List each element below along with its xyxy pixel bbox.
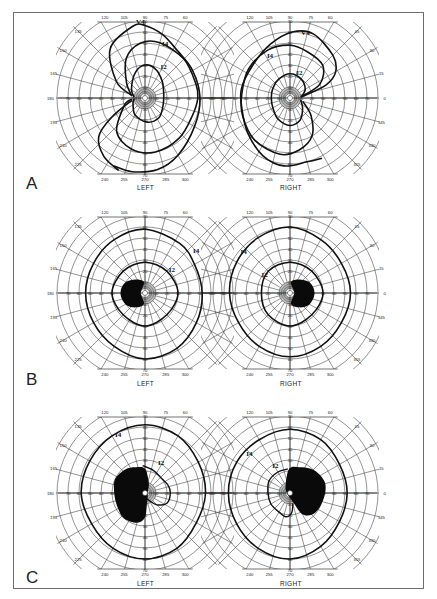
svg-text:70: 70 [66,491,71,496]
svg-text:30: 30 [370,48,375,53]
svg-text:345: 345 [378,315,386,320]
svg-text:50: 50 [143,236,148,241]
svg-text:30: 30 [255,291,260,296]
svg-text:40: 40 [332,291,337,296]
svg-text:30: 30 [176,491,181,496]
svg-text:270: 270 [287,372,295,377]
svg-text:50: 50 [233,291,238,296]
svg-text:60: 60 [77,291,82,296]
panel-letter-a: A [26,174,37,194]
svg-text:30: 30 [255,491,260,496]
svg-text:255: 255 [266,372,274,377]
svg-text:60: 60 [354,291,359,296]
svg-text:15: 15 [379,466,384,471]
svg-text:225: 225 [75,162,83,167]
svg-text:210: 210 [60,338,68,343]
svg-text:225: 225 [75,557,83,562]
svg-text:50: 50 [343,96,348,101]
svg-text:40: 40 [288,247,293,252]
svg-text:50: 50 [343,291,348,296]
svg-text:20: 20 [288,313,293,318]
svg-text:255: 255 [121,572,129,577]
svg-text:20: 20 [288,118,293,123]
svg-text:50: 50 [288,346,293,351]
svg-text:20: 20 [143,74,148,79]
svg-text:240: 240 [101,177,109,182]
svg-text:75: 75 [308,15,313,20]
label-i4-left-c: I4 [115,431,122,439]
svg-text:210: 210 [60,538,68,543]
svg-text:40: 40 [244,96,249,101]
svg-text:70: 70 [365,96,370,101]
eye-label-a-left: LEFT [137,184,154,191]
svg-text:135: 135 [75,29,83,34]
svg-text:40: 40 [288,535,293,540]
svg-text:50: 50 [88,96,93,101]
svg-text:60: 60 [183,410,188,415]
svg-text:270: 270 [142,372,150,377]
svg-text:285: 285 [162,372,170,377]
svg-text:40: 40 [187,491,192,496]
svg-text:75: 75 [308,210,313,215]
svg-text:10: 10 [277,291,282,296]
svg-text:70: 70 [211,291,216,296]
svg-text:60: 60 [77,96,82,101]
svg-text:50: 50 [288,436,293,441]
svg-text:15: 15 [379,266,384,271]
svg-text:270: 270 [142,572,150,577]
svg-text:30: 30 [176,96,181,101]
svg-text:255: 255 [121,372,129,377]
svg-text:75: 75 [308,410,313,415]
svg-text:40: 40 [143,535,148,540]
svg-text:75: 75 [163,410,168,415]
svg-text:10: 10 [154,291,159,296]
svg-text:30: 30 [288,458,293,463]
svg-text:330: 330 [368,338,376,343]
label-i2-left-c: I2 [158,459,165,467]
svg-text:240: 240 [246,372,254,377]
svg-text:195: 195 [50,315,58,320]
svg-text:270: 270 [287,177,295,182]
svg-text:315: 315 [353,557,361,562]
svg-text:120: 120 [246,15,254,20]
svg-text:20: 20 [121,96,126,101]
svg-text:0: 0 [383,96,386,101]
svg-text:75: 75 [163,15,168,20]
svg-text:240: 240 [246,572,254,577]
fixation-point-1 [288,96,293,101]
svg-text:300: 300 [182,177,190,182]
svg-text:165: 165 [50,266,58,271]
svg-text:345: 345 [378,515,386,520]
svg-text:40: 40 [288,447,293,452]
svg-text:300: 300 [182,572,190,577]
svg-text:60: 60 [328,15,333,20]
svg-text:20: 20 [266,291,271,296]
svg-text:30: 30 [255,96,260,101]
svg-text:270: 270 [142,177,150,182]
label-i2-right-c: I2 [272,462,279,470]
svg-text:225: 225 [75,357,83,362]
svg-text:195: 195 [50,515,58,520]
svg-text:255: 255 [121,177,129,182]
svg-text:50: 50 [288,236,293,241]
svg-text:60: 60 [222,491,227,496]
svg-text:40: 40 [244,491,249,496]
svg-text:50: 50 [233,491,238,496]
svg-text:50: 50 [88,291,93,296]
svg-text:70: 70 [211,96,216,101]
svg-text:270: 270 [287,572,295,577]
svg-text:105: 105 [121,15,129,20]
svg-text:20: 20 [288,269,293,274]
label-i2-left-a: I2 [160,63,167,71]
svg-text:60: 60 [183,15,188,20]
svg-text:40: 40 [143,52,148,57]
svg-text:330: 330 [368,538,376,543]
svg-text:285: 285 [307,177,315,182]
label-i2-right-a: I2 [296,69,303,77]
label-i2-left-b: I2 [169,266,176,274]
svg-text:60: 60 [328,410,333,415]
svg-text:40: 40 [332,491,337,496]
svg-text:20: 20 [165,96,170,101]
svg-text:70: 70 [66,291,71,296]
svg-text:10: 10 [288,85,293,90]
